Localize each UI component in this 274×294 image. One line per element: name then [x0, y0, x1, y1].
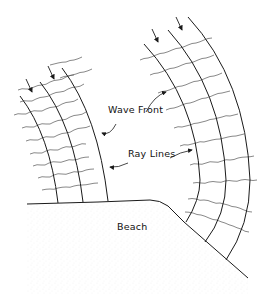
arrow-icon — [48, 66, 54, 79]
wave-refraction-diagram — [0, 0, 274, 294]
beach-shore — [27, 200, 248, 294]
left-ray-lines — [20, 68, 108, 203]
left-direction-arrows — [26, 66, 54, 92]
arrow-icon — [176, 17, 182, 30]
arrow-icon — [26, 79, 32, 92]
ray-lines-label: Ray Lines — [128, 148, 175, 159]
arrow-icon — [152, 29, 158, 42]
beach-label: Beach — [117, 221, 147, 232]
wave-front-leader — [102, 124, 116, 134]
left-wave-fronts — [14, 57, 98, 190]
ray-lines-leader-left — [110, 163, 128, 167]
right-direction-arrows — [152, 17, 182, 42]
wave-front-label: Wave Front — [108, 104, 163, 115]
